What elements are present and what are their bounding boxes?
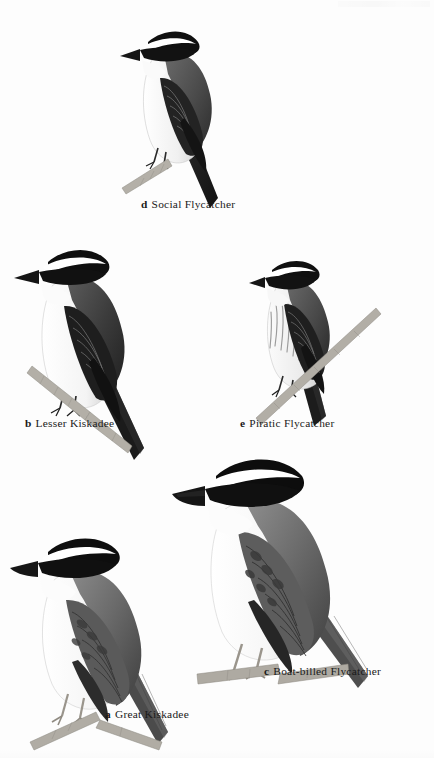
figure-letter-e: e — [240, 417, 245, 429]
figure-name-b: Lesser Kiskadee — [36, 417, 115, 429]
bird-figure-lesser-kiskadee — [14, 236, 184, 466]
figure-name-d: Social Flycatcher — [152, 198, 236, 210]
figure-label-a: aGreat Kiskadee — [105, 709, 189, 720]
eye-mask — [205, 483, 300, 507]
bill — [120, 49, 140, 61]
figure-label-e: ePiratic Flycatcher — [240, 418, 334, 429]
scan-artifact — [338, 1, 430, 7]
figure-letter-d: d — [141, 198, 148, 210]
figure-label-d: dSocial Flycatcher — [141, 199, 235, 210]
bird-figure-social-flycatcher — [118, 16, 258, 216]
figure-letter-b: b — [25, 417, 32, 429]
figure-name-e: Piratic Flycatcher — [249, 417, 334, 429]
perch-branch — [122, 159, 172, 194]
bill — [10, 561, 38, 577]
figure-label-c: cBoat-billed Flycatcher — [264, 666, 381, 677]
figure-name-c: Boat-billed Flycatcher — [273, 665, 381, 677]
bird-figure-boat-billed-flycatcher — [172, 448, 412, 698]
figure-letter-c: c — [264, 665, 269, 677]
bill — [249, 277, 265, 288]
perch-branch — [30, 712, 100, 750]
eye-mask — [39, 268, 106, 285]
bill — [14, 270, 39, 284]
illustration-plate: dSocial Flycatcher bLesser Kiskadee ePir… — [0, 0, 434, 758]
figure-letter-a: a — [105, 708, 111, 720]
page-edge-shading — [0, 748, 434, 758]
eye-mask — [38, 559, 116, 578]
figure-name-a: Great Kiskadee — [115, 708, 189, 720]
figure-label-b: bLesser Kiskadee — [25, 418, 114, 429]
bird-figure-piratic-flycatcher — [248, 250, 398, 430]
